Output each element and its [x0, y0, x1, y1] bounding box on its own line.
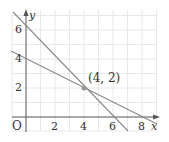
coordinate-plane: y x O 2 4 6 8 2 4 6 (4, 2): [0, 0, 169, 142]
y-axis-label: y: [28, 9, 36, 22]
intersection-point: [82, 86, 87, 91]
y-tick-4: 4: [15, 52, 22, 65]
x-tick-4: 4: [80, 120, 87, 133]
y-axis-arrow-icon: [24, 9, 29, 16]
x-tick-8: 8: [138, 120, 145, 133]
y-tick-6: 6: [15, 23, 22, 36]
x-tick-6: 6: [109, 120, 116, 133]
x-axis-label: x: [151, 120, 158, 133]
x-tick-2: 2: [51, 120, 58, 133]
intersection-label: (4, 2): [88, 71, 120, 85]
origin-label: O: [12, 119, 22, 133]
y-tick-2: 2: [15, 81, 22, 94]
